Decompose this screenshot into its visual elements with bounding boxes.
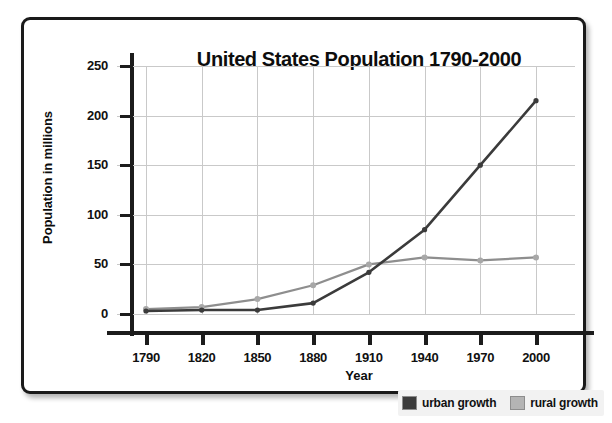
data-point: [422, 254, 428, 260]
legend-entry: urban growth: [402, 396, 496, 410]
data-point: [143, 308, 148, 313]
data-point: [255, 307, 260, 312]
series-line-urban: [146, 101, 536, 311]
data-point: [477, 257, 483, 263]
data-point: [199, 307, 204, 312]
data-point: [422, 227, 427, 232]
chart-frame: United States Population 1790-2000 Popul…: [21, 17, 586, 394]
legend-label: urban growth: [422, 396, 496, 410]
data-point: [478, 163, 483, 168]
chart-legend: urban growthrural growth: [398, 390, 604, 416]
data-point: [310, 282, 316, 288]
data-point: [254, 296, 260, 302]
data-point: [366, 270, 371, 275]
series-line-rural: [146, 257, 536, 309]
legend-entry: rural growth: [510, 396, 598, 410]
legend-label: rural growth: [530, 396, 598, 410]
chart-figure: United States Population 1790-2000 Popul…: [0, 0, 612, 423]
legend-swatch-icon: [402, 396, 417, 410]
data-point: [533, 254, 539, 260]
legend-swatch-icon: [510, 396, 525, 410]
data-point: [366, 261, 372, 267]
series-layer: [24, 20, 612, 423]
data-point: [311, 300, 316, 305]
data-point: [533, 98, 538, 103]
